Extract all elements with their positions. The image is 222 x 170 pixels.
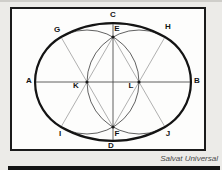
point-label-k: K [73,82,79,90]
point-k-dot [85,80,88,83]
bottom-rule [8,166,220,170]
point-label-j: J [166,130,170,138]
point-label-b: B [194,77,200,85]
point-label-f: F [115,130,120,138]
point-label-h: H [165,23,171,31]
point-label-l: L [129,82,134,90]
point-label-g: G [54,26,60,34]
figure-canvas: A B C D E F G H I J K L Salvat Universal [0,0,222,170]
point-label-a: A [26,77,32,85]
source-credit: Salvat Universal [160,155,218,163]
point-label-d: D [108,142,114,150]
point-label-e: E [114,25,119,33]
point-e-dot [111,35,114,38]
point-label-c: C [110,11,116,19]
point-label-i: I [59,130,61,138]
point-l-dot [137,80,140,83]
